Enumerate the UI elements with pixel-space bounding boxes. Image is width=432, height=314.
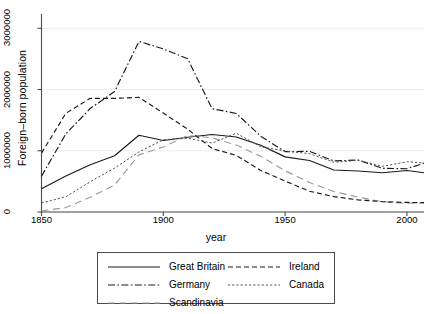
legend-label: Scandinavia xyxy=(169,297,223,308)
legend-item-canada[interactable]: Canada xyxy=(226,277,324,292)
chart-legend: Great BritainGermanyScandinaviaIrelandCa… xyxy=(97,252,335,304)
series-line-germany xyxy=(42,41,425,176)
y-tick-label: 3000000 xyxy=(0,22,38,34)
legend-key-icon xyxy=(226,261,282,273)
legend-item-great-britain[interactable]: Great Britain xyxy=(106,259,225,274)
legend-item-ireland[interactable]: Ireland xyxy=(226,259,320,274)
series-line-scandinavia xyxy=(42,135,425,210)
y-tick-label: 1000000 xyxy=(0,145,38,157)
legend-label: Germany xyxy=(169,279,210,290)
legend-item-scandinavia[interactable]: Scandinavia xyxy=(106,295,223,310)
x-tick-label: 1850 xyxy=(19,214,65,225)
legend-label: Ireland xyxy=(289,261,320,272)
y-tick-label: 2000000 xyxy=(0,84,38,96)
x-tick-label: 1900 xyxy=(140,214,186,225)
legend-label: Canada xyxy=(289,279,324,290)
legend-key-icon xyxy=(106,297,162,309)
legend-item-germany[interactable]: Germany xyxy=(106,277,210,292)
legend-label: Great Britain xyxy=(169,261,225,272)
x-axis-title: year xyxy=(0,231,432,243)
chart-figure: Foreign–born population year 01000000200… xyxy=(0,0,432,314)
x-tick-label: 1950 xyxy=(262,214,308,225)
legend-key-icon xyxy=(226,279,282,291)
x-tick-label: 2000 xyxy=(384,214,430,225)
y-axis-title: Foreign–born population xyxy=(16,20,28,196)
legend-key-icon xyxy=(106,279,162,291)
legend-key-icon xyxy=(106,261,162,273)
series-line-great-britain xyxy=(42,135,425,189)
